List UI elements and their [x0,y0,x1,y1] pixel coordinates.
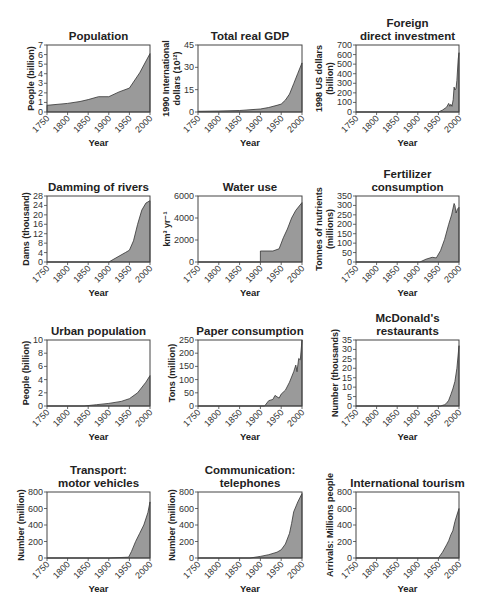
area-series [356,509,459,559]
x-tick-label: 2000 [442,559,463,580]
y-tick-label: 600 [337,504,352,514]
x-tick-label: 1750 [339,559,360,580]
y-tick-label: 400 [337,520,352,530]
x-tick-label: 1950 [422,559,443,580]
plot-frame [356,492,459,558]
chart-title: International tourism [350,477,464,489]
y-axis-label: Arrivals: Millions people [325,473,335,577]
y-tick-label: 200 [337,537,352,547]
x-tick-label: 1900 [401,559,422,580]
x-tick-label: 1800 [360,559,381,580]
x-tick-label: 1850 [380,559,401,580]
x-axis-label: Year [397,583,417,594]
